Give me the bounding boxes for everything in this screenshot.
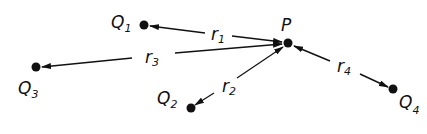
- point-p: [284, 39, 293, 48]
- point-q4: [389, 85, 398, 94]
- label-q1: Q1: [111, 12, 131, 35]
- label-p: P: [281, 15, 292, 35]
- point-q3: [32, 63, 41, 72]
- label-q3: Q3: [18, 78, 38, 101]
- vector-r2: [195, 47, 283, 105]
- point-q2: [187, 104, 196, 113]
- label-r1: r1: [211, 24, 225, 46]
- label-r4: r4: [337, 56, 351, 78]
- label-q2: Q2: [157, 88, 177, 111]
- point-q1: [140, 21, 149, 30]
- label-r2: r2: [222, 76, 236, 98]
- label-r3: r3: [145, 47, 159, 69]
- label-q4: Q4: [399, 92, 419, 117]
- vector-r3: [42, 44, 282, 67]
- vector-diagram: P Q1 Q2 Q3 Q4 r1 r3 r2 r4: [0, 0, 427, 134]
